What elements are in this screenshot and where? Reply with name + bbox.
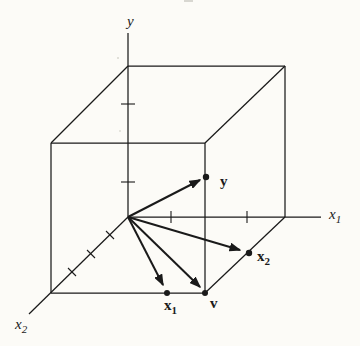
cube-bottom-right-receding-edge — [205, 217, 285, 293]
scan-artifact-top — [184, 0, 193, 2]
point-y-label: y — [220, 173, 228, 189]
point-v-label: v — [210, 295, 218, 311]
x2-axis — [29, 217, 128, 314]
cube-top-left-receding-edge — [51, 66, 128, 143]
x1-axis-label: x1 — [328, 206, 341, 225]
scan-artifact-speck-1 — [117, 57, 119, 59]
point-x2-label: x2 — [257, 248, 271, 267]
x2-axis-label: x2 — [14, 316, 28, 335]
labels-group: yx1x2yx2x1v — [14, 13, 341, 335]
point-x1-label: x1 — [164, 297, 177, 316]
vector-to-x1 — [128, 217, 163, 285]
axes-group — [29, 33, 321, 314]
figure-svg: yx1x2yx2x1v — [0, 0, 360, 346]
scan-artifact-speck-2 — [119, 130, 121, 132]
point-x2 — [246, 250, 252, 256]
vector-to-y — [128, 180, 200, 217]
point-x1 — [164, 290, 170, 296]
cube-edges-group — [51, 66, 285, 293]
cube-top-right-receding-edge — [205, 66, 285, 143]
point-v — [202, 290, 208, 296]
figure: yx1x2yx2x1v — [0, 0, 360, 346]
vectors-group — [128, 180, 240, 287]
point-y — [203, 174, 209, 180]
y-axis-label: y — [125, 13, 134, 29]
